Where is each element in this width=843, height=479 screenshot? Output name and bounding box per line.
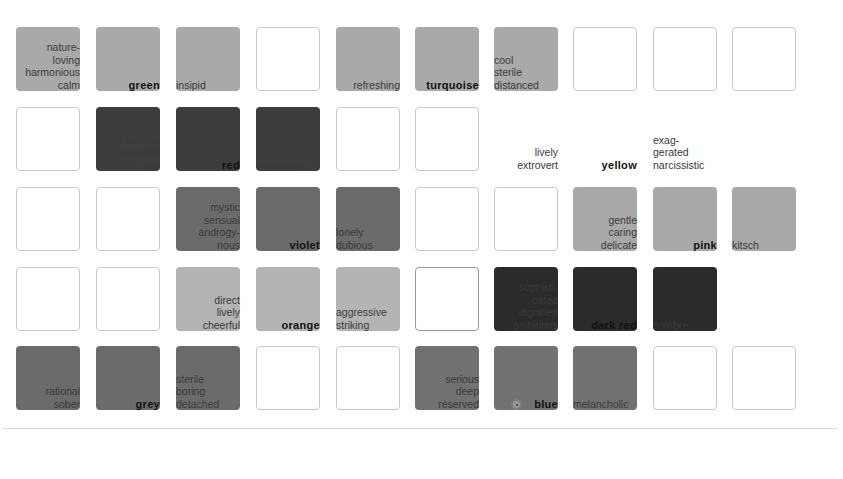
label-line: sombre [653,319,688,332]
label-line: lively [203,306,240,319]
label-line: aggressive [336,306,387,319]
association-label: forcefulpowerfulvital [120,134,160,172]
label-line: melancholic [573,398,628,411]
association-label: livelyextrovert [517,146,558,171]
label-line: dignified [513,306,558,319]
label-line: kitsch [732,239,759,252]
label-line: nature- [25,41,80,54]
label-line: androgy- [199,226,240,239]
label-line: forceful [120,134,160,147]
color-association-grid: nature-lovingharmoniouscalmgreeninsipidr… [0,0,843,430]
label-line: vital [120,159,160,172]
label-line: caring [601,226,637,239]
label-line: rational [46,385,80,398]
radio-dot-icon [513,401,520,408]
empty-color-swatch [256,346,320,410]
association-label: mysticsensualandrogy-nous [199,201,240,251]
label-line: refreshing [353,79,400,92]
color-name-label: dark red [591,319,637,332]
label-line: orange [282,319,320,332]
empty-color-swatch [494,187,558,251]
association-label: seriousdeepreserved [438,373,479,411]
label-line: yellow [602,159,637,172]
association-label: sophisti-cateddignifiedambitious [513,281,558,331]
label-line: lonely [336,226,373,239]
color-name-label: blue [534,398,558,411]
association-label: kitsch [732,239,759,252]
association-label: aggressive [256,159,307,172]
empty-color-swatch [336,346,400,410]
association-label: aggressivestriking [336,306,387,331]
association-label: gentlecaringdelicate [601,214,637,252]
empty-color-swatch [16,187,80,251]
color-name-label: violet [289,239,320,252]
label-line: sensual [199,214,240,227]
label-line: exag- [653,134,704,147]
label-line: sterile [176,373,219,386]
label-line: narcissistic [653,159,704,172]
color-name-label: turquoise [426,79,479,92]
label-line: insipid [176,79,206,92]
empty-color-swatch [16,267,80,331]
association-label: exag-geratednarcissistic [653,134,704,172]
label-line: detached [176,398,219,411]
label-line: turquoise [426,79,479,92]
label-line: sterile [494,66,539,79]
label-line: aggressive [256,159,307,172]
association-label: nature-lovingharmoniouscalm [25,41,80,91]
label-line: serious [438,373,479,386]
label-line: dark red [591,319,637,332]
empty-color-swatch [732,27,796,91]
label-line: nous [199,239,240,252]
label-line: powerful [120,146,160,159]
label-line: cated [513,294,558,307]
color-name-label: yellow [602,159,637,172]
empty-color-swatch [653,346,717,410]
label-line: mystic [199,201,240,214]
color-name-label: red [222,159,240,172]
association-label: insipid [176,79,206,92]
bottom-divider [2,428,838,429]
label-line: calm [25,79,80,92]
label-line: distanced [494,79,539,92]
empty-color-swatch [96,267,160,331]
label-line: cool [494,54,539,67]
association-label: refreshing [353,79,400,92]
association-label: sombre [653,319,688,332]
label-line: red [222,159,240,172]
label-line: grey [136,398,160,411]
label-line: blue [534,398,558,411]
label-line: gerated [653,146,704,159]
label-line: boring [176,385,219,398]
empty-color-swatch [415,267,479,331]
association-label: melancholic [573,398,628,411]
label-line: delicate [601,239,637,252]
label-line: ambitious [513,319,558,332]
association-label: coolsteriledistanced [494,54,539,92]
label-line: reserved [438,398,479,411]
empty-color-swatch [732,346,796,410]
association-label: lonelydubious [336,226,373,251]
color-name-label: orange [282,319,320,332]
label-line: cheerful [203,319,240,332]
association-label: sterileboringdetached [176,373,219,411]
empty-color-swatch [96,187,160,251]
empty-color-swatch [573,27,637,91]
empty-color-swatch [336,107,400,171]
color-name-label: pink [693,239,717,252]
empty-color-swatch [415,187,479,251]
label-line: pink [693,239,717,252]
label-line: dubious [336,239,373,252]
label-line: harmonious [25,66,80,79]
label-line: extrovert [517,159,558,172]
empty-color-swatch [653,27,717,91]
label-line: gentle [601,214,637,227]
empty-color-swatch [415,107,479,171]
label-line: direct [203,294,240,307]
label-line: sober [46,398,80,411]
association-label: directlivelycheerful [203,294,240,332]
label-line: deep [438,385,479,398]
color-name-label: grey [136,398,160,411]
label-line: sophisti- [513,281,558,294]
association-label: rationalsober [46,385,80,410]
